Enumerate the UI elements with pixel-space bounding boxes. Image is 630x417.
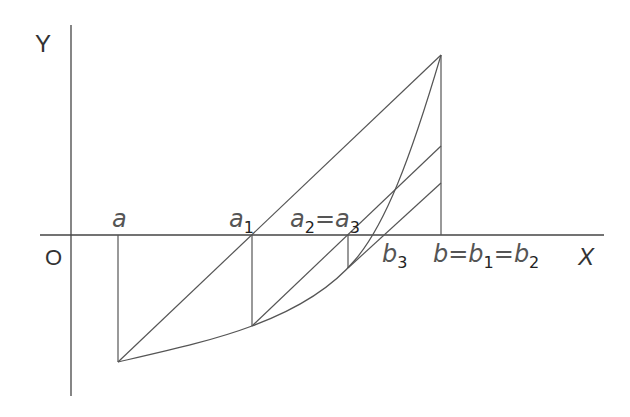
secant-method-diagram: Y O X a a1 a2=a3 b3 b=b1=b2 bbox=[0, 0, 630, 417]
label-a: a bbox=[112, 205, 127, 233]
label-a2-eq-a3: a2=a3 bbox=[290, 205, 360, 237]
chord-2 bbox=[252, 146, 441, 326]
x-axis-label: X bbox=[577, 243, 595, 270]
origin-label: O bbox=[45, 245, 62, 270]
label-a1: a1 bbox=[229, 205, 254, 237]
label-b3: b3 bbox=[382, 240, 407, 272]
label-b-eq-b1-eq-b2: b=b1=b2 bbox=[433, 240, 539, 272]
y-axis-label: Y bbox=[35, 30, 51, 57]
chord-1 bbox=[118, 55, 441, 362]
